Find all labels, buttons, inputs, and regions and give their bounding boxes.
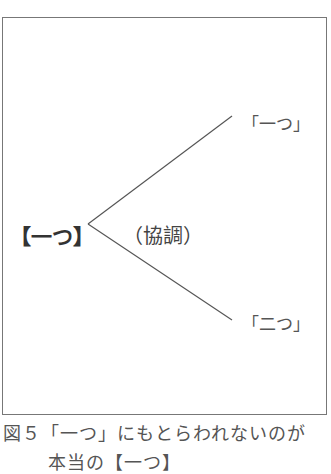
root-node: 【一つ】 [10,220,94,250]
branch-line-top [88,116,232,224]
figure-caption-line2: 本当の【一つ】 [48,448,181,474]
relation-label: （協調） [123,220,203,249]
figure-caption-line1: 図５「一つ」にもとらわれないのが [3,419,306,445]
branch-node-bottom: 「二つ」 [242,310,310,335]
branch-node-top: 「一つ」 [242,110,310,135]
